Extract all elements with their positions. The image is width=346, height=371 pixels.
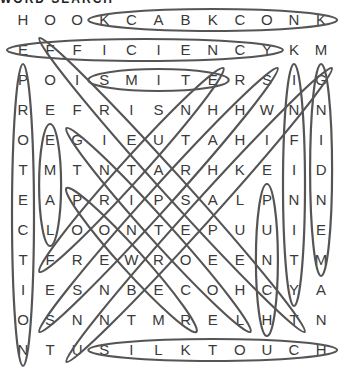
grid-cell[interactable]: E <box>37 128 63 152</box>
grid-cell[interactable]: F <box>37 248 63 272</box>
grid-cell[interactable]: R <box>173 158 199 182</box>
grid-cell[interactable]: N <box>281 188 307 212</box>
grid-cell[interactable]: N <box>118 218 144 242</box>
grid-cell[interactable]: I <box>118 98 144 122</box>
grid-cell[interactable]: E <box>10 188 36 212</box>
grid-cell[interactable]: O <box>37 8 63 32</box>
grid-cell[interactable]: R <box>173 308 199 332</box>
grid-cell[interactable]: I <box>118 338 144 362</box>
grid-cell[interactable]: P <box>200 218 226 242</box>
grid-cell[interactable]: P <box>254 188 280 212</box>
grid-cell[interactable]: E <box>146 278 172 302</box>
grid-cell[interactable]: E <box>200 68 226 92</box>
grid-cell[interactable]: T <box>281 308 307 332</box>
grid-cell[interactable]: N <box>200 38 226 62</box>
grid-cell[interactable]: E <box>254 158 280 182</box>
grid-cell[interactable]: N <box>281 98 307 122</box>
grid-cell[interactable]: C <box>118 38 144 62</box>
grid-cell[interactable]: T <box>10 158 36 182</box>
grid-cell[interactable]: L <box>146 338 172 362</box>
grid-cell[interactable]: S <box>91 68 117 92</box>
grid-cell[interactable]: F <box>64 38 90 62</box>
grid-cell[interactable]: I <box>308 128 334 152</box>
grid-cell[interactable]: E <box>37 278 63 302</box>
grid-cell[interactable]: S <box>64 278 90 302</box>
grid-cell[interactable]: N <box>173 98 199 122</box>
grid-cell[interactable]: E <box>10 38 36 62</box>
grid-cell[interactable]: S <box>91 338 117 362</box>
grid-cell[interactable]: H <box>227 98 253 122</box>
grid-cell[interactable]: A <box>37 188 63 212</box>
grid-cell[interactable]: K <box>227 158 253 182</box>
grid-cell[interactable]: E <box>173 218 199 242</box>
grid-cell[interactable]: E <box>200 248 226 272</box>
grid-cell[interactable]: H <box>227 278 253 302</box>
grid-cell[interactable]: N <box>10 338 36 362</box>
grid-cell[interactable]: M <box>146 308 172 332</box>
grid-cell[interactable]: M <box>308 38 334 62</box>
grid-cell[interactable]: U <box>254 218 280 242</box>
grid-cell[interactable]: R <box>227 68 253 92</box>
grid-cell[interactable]: R <box>91 188 117 212</box>
grid-cell[interactable]: O <box>227 338 253 362</box>
grid-cell[interactable]: K <box>200 8 226 32</box>
grid-cell[interactable]: I <box>91 128 117 152</box>
grid-cell[interactable]: E <box>173 38 199 62</box>
grid-cell[interactable]: S <box>37 308 63 332</box>
grid-cell[interactable]: O <box>200 278 226 302</box>
grid-cell[interactable]: S <box>254 68 280 92</box>
grid-cell[interactable]: O <box>173 248 199 272</box>
grid-cell[interactable]: I <box>146 38 172 62</box>
grid-cell[interactable]: N <box>308 308 334 332</box>
grid-cell[interactable]: K <box>308 8 334 32</box>
grid-cell[interactable]: O <box>64 218 90 242</box>
grid-cell[interactable]: I <box>281 68 307 92</box>
grid-cell[interactable]: I <box>91 38 117 62</box>
grid-cell[interactable]: W <box>118 248 144 272</box>
grid-cell[interactable]: F <box>37 38 63 62</box>
grid-cell[interactable]: S <box>146 98 172 122</box>
grid-cell[interactable]: E <box>200 308 226 332</box>
grid-cell[interactable]: R <box>91 98 117 122</box>
grid-cell[interactable]: U <box>146 128 172 152</box>
grid-cell[interactable]: R <box>10 98 36 122</box>
grid-cell[interactable]: R <box>146 248 172 272</box>
grid-cell[interactable]: H <box>200 158 226 182</box>
grid-cell[interactable]: Y <box>254 38 280 62</box>
grid-cell[interactable]: C <box>281 338 307 362</box>
grid-cell[interactable]: I <box>146 68 172 92</box>
grid-cell[interactable]: H <box>227 128 253 152</box>
grid-cell[interactable]: A <box>146 158 172 182</box>
grid-cell[interactable]: T <box>118 308 144 332</box>
grid-cell[interactable]: G <box>64 128 90 152</box>
grid-cell[interactable]: G <box>308 68 334 92</box>
grid-cell[interactable]: I <box>118 188 144 212</box>
grid-cell[interactable]: I <box>281 158 307 182</box>
grid-cell[interactable]: N <box>91 278 117 302</box>
grid-cell[interactable]: I <box>10 278 36 302</box>
grid-cell[interactable]: I <box>281 218 307 242</box>
grid-cell[interactable]: B <box>118 278 144 302</box>
grid-cell[interactable]: T <box>10 248 36 272</box>
grid-cell[interactable]: O <box>37 68 63 92</box>
grid-cell[interactable]: N <box>64 308 90 332</box>
grid-cell[interactable]: E <box>91 248 117 272</box>
grid-cell[interactable]: F <box>281 128 307 152</box>
grid-cell[interactable]: T <box>146 218 172 242</box>
grid-cell[interactable]: D <box>308 158 334 182</box>
grid-cell[interactable]: K <box>91 8 117 32</box>
grid-cell[interactable]: T <box>64 158 90 182</box>
grid-cell[interactable]: M <box>118 68 144 92</box>
grid-cell[interactable]: N <box>91 308 117 332</box>
grid-cell[interactable]: A <box>146 8 172 32</box>
grid-cell[interactable]: N <box>308 98 334 122</box>
grid-cell[interactable]: M <box>37 158 63 182</box>
grid-cell[interactable]: H <box>200 98 226 122</box>
grid-cell[interactable]: T <box>173 128 199 152</box>
grid-cell[interactable]: K <box>173 338 199 362</box>
grid-cell[interactable]: L <box>227 188 253 212</box>
grid-cell[interactable]: C <box>173 278 199 302</box>
grid-cell[interactable]: Y <box>281 278 307 302</box>
grid-cell[interactable]: T <box>37 338 63 362</box>
grid-cell[interactable]: S <box>173 188 199 212</box>
